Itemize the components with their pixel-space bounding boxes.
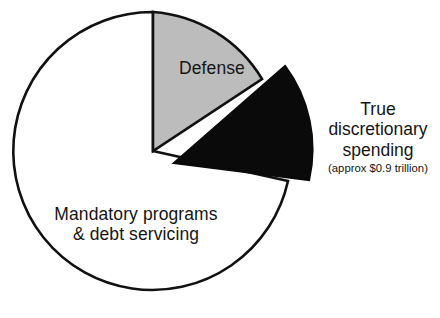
pie-label-discretionary: True discretionary spending [316, 99, 440, 160]
pie-label-mandatory: Mandatory programs & debt servicing [38, 204, 234, 245]
pie-label-discretionary-group: True discretionary spending (approx $0.9… [316, 99, 440, 175]
pie-chart-figure: Defense Mandatory programs & debt servic… [0, 0, 440, 318]
pie-label-discretionary-approx: (approx $0.9 trillion) [316, 162, 440, 176]
pie-label-defense: Defense [160, 58, 264, 78]
